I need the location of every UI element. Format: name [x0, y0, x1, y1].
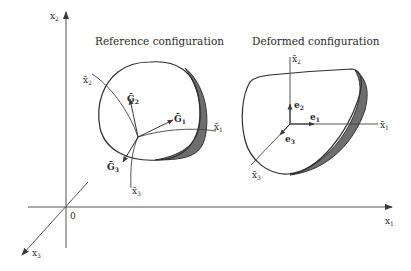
configuration-diagram: x2 x1 x3 0 Reference configuration x̄2 x… [0, 0, 411, 271]
e2-label: e2 [294, 100, 304, 111]
def-xbar3-label: x̄3 [252, 170, 261, 181]
e1-label: e1 [310, 112, 320, 123]
G3-label: Ḡ3 [107, 161, 119, 173]
G1-label: Ḡ1 [174, 113, 186, 125]
deformed-shell-edge [290, 70, 367, 175]
x2-axis-label: x2 [50, 11, 59, 22]
ref-xbar3-curve [131, 137, 138, 188]
reference-outline [99, 62, 200, 160]
reference-title: Reference configuration [95, 35, 224, 47]
origin-label: 0 [70, 211, 76, 221]
def-xbar1-label: x̄1 [380, 120, 389, 131]
e3-label: e3 [285, 134, 295, 145]
reference-body [99, 62, 207, 160]
ref-xbar2-label: x̄2 [83, 75, 92, 86]
G2-label: Ḡ2 [127, 93, 139, 105]
x3-axis-label: x3 [32, 248, 41, 259]
def-xbar2-label: x̄2 [292, 54, 301, 65]
global-axes [22, 12, 392, 255]
x1-axis-label: x1 [385, 216, 394, 227]
x3-axis [22, 182, 88, 255]
G1-vector [138, 120, 173, 137]
deformed-body [242, 69, 367, 175]
deformed-outline [242, 69, 361, 174]
ref-xbar1-label: x̄1 [214, 122, 223, 133]
ref-xbar3-label: x̄3 [132, 186, 141, 197]
deformed-title: Deformed configuration [252, 35, 380, 47]
